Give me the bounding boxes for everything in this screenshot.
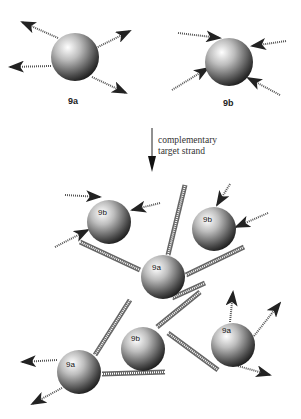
particle-9b-aggregate-2: 9b <box>192 207 236 251</box>
particle-label: 9a <box>68 96 79 106</box>
particle-label: 9a <box>152 263 161 272</box>
particle-9a-aggregate-3: 9a <box>211 323 255 367</box>
particle-9a-aggregate-1: 9a <box>141 255 185 299</box>
arrow-caption-line1: complementary <box>158 135 217 145</box>
particle-label: 9b <box>223 98 234 108</box>
particle-label: 9b <box>131 334 140 343</box>
particle-9a-top: 9a <box>10 22 130 106</box>
nanoparticle-assembly-diagram: 9a 9b complementary target strand <box>0 0 301 419</box>
reaction-arrow: complementary target strand <box>148 128 217 172</box>
particle-9b-aggregate-1: 9b <box>87 200 131 244</box>
particle-9b-top: 9b <box>172 33 286 108</box>
particle-label: 9b <box>203 215 212 224</box>
arrow-caption-line2: target strand <box>158 146 205 156</box>
particle-label: 9a <box>222 326 231 335</box>
particle-label: 9b <box>98 208 107 217</box>
particle-9a-aggregate-2: 9a <box>57 350 101 394</box>
nanoparticle-sphere <box>205 38 253 86</box>
particle-label: 9a <box>66 360 75 369</box>
particle-9b-aggregate-3: 9b <box>121 327 165 371</box>
nanoparticle-sphere <box>51 33 99 81</box>
